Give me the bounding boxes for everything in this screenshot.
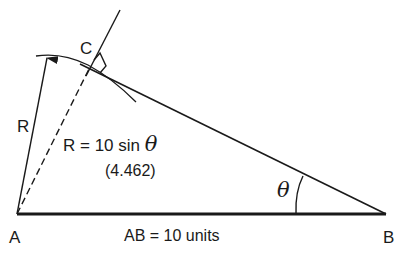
formula-theta: θ [145, 132, 158, 156]
point-label-a: A [9, 229, 20, 246]
point-label-c: C [80, 40, 92, 57]
angle-label-theta: θ [277, 180, 290, 201]
formula-prefix: R = 10 sin [63, 136, 145, 155]
geometry-diagram [0, 0, 404, 260]
formula-label: R = 10 sin θ [63, 134, 157, 155]
point-label-b: B [383, 229, 394, 246]
radius-arc [36, 55, 136, 102]
angle-arc-theta [296, 176, 303, 214]
radius-label: R [17, 118, 29, 135]
formula-value: (4.462) [105, 163, 156, 179]
base-length-label: AB = 10 units [124, 228, 220, 244]
radius-arrow [17, 58, 47, 214]
